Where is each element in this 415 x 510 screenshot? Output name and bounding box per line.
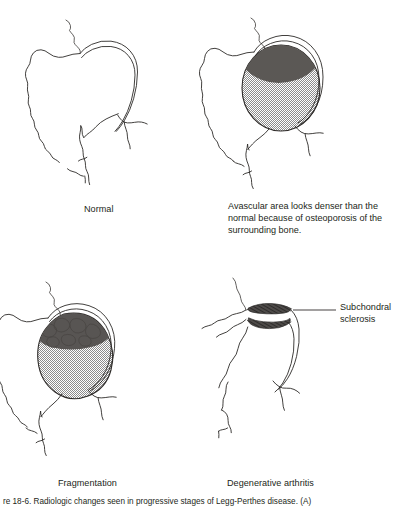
- femoral-head-inner-degenerative: [275, 322, 294, 392]
- ischium-tip-degenerative: [219, 428, 228, 431]
- pubic-ramus-avascular: [246, 144, 253, 189]
- figure-root: Normal: [0, 0, 415, 510]
- ischium-contour-avascular: [233, 161, 244, 166]
- panel-avascular: Avascular area looks denser than the nor…: [207, 0, 415, 200]
- acetabular-roof-degenerative: [202, 310, 246, 328]
- figure-caption: re 18-6. Radiologic changes seen in prog…: [3, 497, 415, 510]
- femoral-neck-degenerative: [219, 327, 248, 388]
- acetabular-inner-line-normal: [82, 46, 136, 131]
- pubic-ramus-degenerative: [222, 382, 228, 410]
- ischium-lower-normal: [85, 176, 86, 183]
- panel-label-normal: Normal: [84, 204, 113, 216]
- iliac-line-degenerative: [233, 278, 246, 310]
- trochanter-lower-line-normal: [124, 122, 130, 149]
- acetabular-inferior-degenerative: [216, 320, 246, 338]
- hip-diagram-normal: [0, 0, 207, 200]
- iliac-line-fragmentation: [46, 282, 60, 315]
- panel-degenerative: Subchondral sclerosis Degenerative arthr…: [207, 272, 415, 477]
- ischium-contour-normal: [67, 169, 83, 176]
- iliac-line-normal: [66, 20, 80, 53]
- trochanter-lower-fragmentation: [98, 398, 103, 420]
- pubic-ramus-inner-avascular: [243, 171, 252, 175]
- trochanter-line-degenerative: [273, 381, 300, 393]
- panel-label-degenerative: Degenerative arthritis: [227, 478, 314, 490]
- ischium-contour-fragmentation: [26, 428, 37, 433]
- subchondral-sclerosis-label: Subchondral sclerosis: [340, 302, 415, 326]
- femoral-neck-avascular: [248, 129, 269, 149]
- avascular-note: Avascular area looks denser than the nor…: [228, 201, 396, 236]
- hip-diagram-avascular: [207, 0, 415, 200]
- panel-fragmentation: Fragmentation: [0, 272, 207, 477]
- femoral-neck-normal: [84, 114, 118, 138]
- trochanter-lower-degenerative: [280, 387, 285, 411]
- ilium-contour-normal: [25, 50, 80, 163]
- femoral-neck-fragmentation: [41, 394, 62, 417]
- pubic-ramus-inner-normal: [78, 157, 87, 161]
- panel-normal: Normal: [0, 0, 207, 200]
- sclerosis-band-acetabular: [248, 304, 292, 314]
- trochanter-line-avascular: [295, 126, 323, 134]
- panel-label-fragmentation: Fragmentation: [58, 478, 117, 490]
- sclerosis-band-femoral: [248, 318, 290, 329]
- pubic-ramus-fragmentation: [39, 411, 46, 456]
- hip-diagram-fragmentation: [0, 272, 207, 477]
- trochanter-lower-avascular: [305, 134, 310, 156]
